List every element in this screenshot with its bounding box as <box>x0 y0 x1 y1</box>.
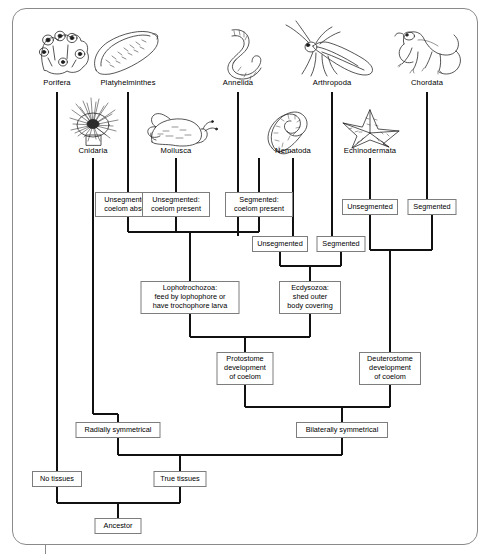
trait-line: Radially symmetrical <box>85 426 152 435</box>
trait-line: Ancestor <box>104 522 133 531</box>
lizard-icon <box>395 32 460 74</box>
trait-box-bilaterally-symmetrical: Bilaterally symmetrical <box>296 422 388 438</box>
clade-box-protostome: Protostomedevelopmentof coelom <box>217 352 274 385</box>
clade-box-ecdysozoa: Ecdysozoa:shed outerbody covering <box>279 281 341 314</box>
trait-line: Bilaterally symmetrical <box>306 426 379 435</box>
trait-box-segmented-ecdysozoa: Segmented <box>317 236 366 252</box>
trait-box-true-tissues: True tissues <box>154 471 207 487</box>
taxon-label-porifera: Porifera <box>43 78 70 87</box>
cladogram-page: Porifera Platyhelminthes Annelida Arthro… <box>0 0 491 554</box>
trait-line: Unsegmented <box>347 203 392 212</box>
trait-box-segmented-deuterostome: Segmented <box>408 199 457 215</box>
sea-anemone-icon <box>70 98 118 145</box>
trait-box-unsegmented-ecdysozoa: Unsegmented <box>252 236 308 252</box>
taxon-label-platyhelminthes: Platyhelminthes <box>100 78 155 87</box>
sea-star-icon <box>343 110 399 148</box>
taxon-label-arthropoda: Arthropoda <box>313 78 352 87</box>
taxon-label-nematoda: Nematoda <box>275 146 311 155</box>
trait-line: True tissues <box>160 475 199 484</box>
trait-box-segmented-coelom-present: Segmented:coelom present <box>225 192 293 217</box>
clade-box-lophotrochozoa: Lophotrochozoa:feed by lophophore orhave… <box>141 281 240 314</box>
trait-box-radially-symmetrical: Radially symmetrical <box>76 422 161 438</box>
trait-line: of coelom <box>367 373 413 382</box>
trait-line: coelom present <box>151 205 201 214</box>
snail-icon <box>148 114 218 146</box>
trait-line: of coelom <box>224 373 266 382</box>
taxon-label-chordata: Chordata <box>411 78 443 87</box>
trait-box-unsegmented-coelom-present: Unsegmented:coelom present <box>142 192 210 217</box>
trait-line: No tissues <box>40 475 74 484</box>
trait-line: Unsegmented <box>257 240 302 249</box>
trait-line: coelom present <box>234 205 284 214</box>
earthworm-icon <box>228 30 261 80</box>
trait-line: Segmented <box>322 240 359 249</box>
taxon-label-echinodermata: Echinodermata <box>344 146 396 155</box>
flatworm-icon <box>95 31 159 74</box>
trait-line: have trochophore larva <box>153 302 228 311</box>
clade-box-deuterostome: Deuterostomedevelopmentof coelom <box>359 352 421 385</box>
trait-line: Segmented <box>413 203 450 212</box>
taxon-label-cnidaria: Cnidaria <box>78 146 107 155</box>
taxon-label-mollusca: Mollusca <box>161 146 192 155</box>
taxon-label-annelida: Annelida <box>223 78 253 87</box>
trait-box-no-tissues: No tissues <box>32 471 82 487</box>
trait-box-unsegmented-deuterostome: Unsegmented <box>342 199 398 215</box>
sponge-icon <box>39 31 88 74</box>
root-box-ancestor: Ancestor <box>95 518 142 534</box>
insect-icon <box>286 21 373 76</box>
trait-line: body covering <box>287 302 332 311</box>
